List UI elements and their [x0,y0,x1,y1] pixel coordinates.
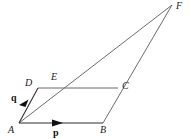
geometry-figure: A B C D E F p q [0,0,190,139]
point-label-e: E [51,72,57,82]
point-label-b: B [100,125,106,135]
point-label-f: F [176,1,182,11]
vector-p-arrowhead [52,119,63,126]
vector-q-arrowhead [19,100,29,108]
point-label-c: C [122,81,129,91]
vector-label-p: p [53,128,59,138]
point-label-a: A [8,125,14,135]
line-a-to-f [19,5,172,123]
vector-label-q: q [11,93,17,103]
point-label-d: D [25,78,32,88]
diagram-canvas [0,0,190,139]
line-b-to-f [103,5,172,123]
